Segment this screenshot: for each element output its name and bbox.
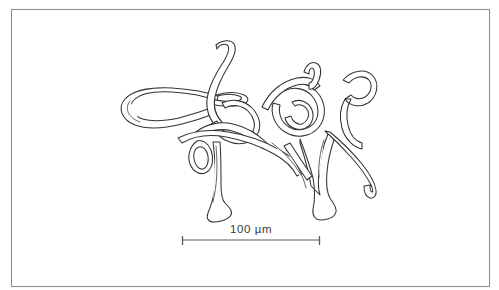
large-left-loop	[121, 88, 218, 128]
right-hook	[341, 71, 377, 149]
scale-bar-label: 100 µm	[230, 223, 272, 235]
right-coil-inner	[285, 100, 313, 129]
organism-drawing	[121, 41, 377, 222]
upper-tendril	[207, 41, 235, 126]
scale-bar: 100 µm	[182, 223, 320, 245]
figure-frame	[12, 10, 490, 287]
figure-root: 100 µm	[0, 0, 499, 290]
figure-canvas: 100 µm	[0, 0, 499, 290]
small-lower-loop	[189, 140, 213, 173]
